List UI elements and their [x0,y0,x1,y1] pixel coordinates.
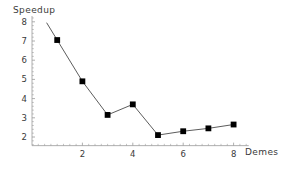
x-tick-label: 8 [231,149,236,159]
data-point-marker [54,37,60,43]
chart-screenshot: Speedup Demes 2345678 2468 [0,0,287,180]
x-tick-label: 4 [130,149,135,159]
data-point-marker [130,101,136,107]
x-tick-label: 2 [80,149,85,159]
y-tick-label: 6 [22,55,27,65]
y-tick-label: 5 [22,74,27,84]
data-point-marker [155,132,161,138]
y-tick-label: 8 [22,17,27,27]
x-tick-label: 6 [180,149,185,159]
data-point-marker [206,125,212,131]
data-point-marker [80,78,86,84]
series-markers [54,37,236,138]
y-tick-label: 2 [22,132,27,142]
data-point-marker [105,112,111,118]
y-tick-label: 4 [22,94,27,104]
series-line [47,23,234,135]
y-tick-label: 7 [22,36,27,46]
data-point-marker [231,122,237,128]
data-point-marker [180,128,186,134]
x-axis: 2468 [32,143,249,159]
y-axis: 2345678 [22,16,35,146]
line-chart-plot: 2345678 2468 [0,0,287,180]
y-tick-label: 3 [22,113,27,123]
